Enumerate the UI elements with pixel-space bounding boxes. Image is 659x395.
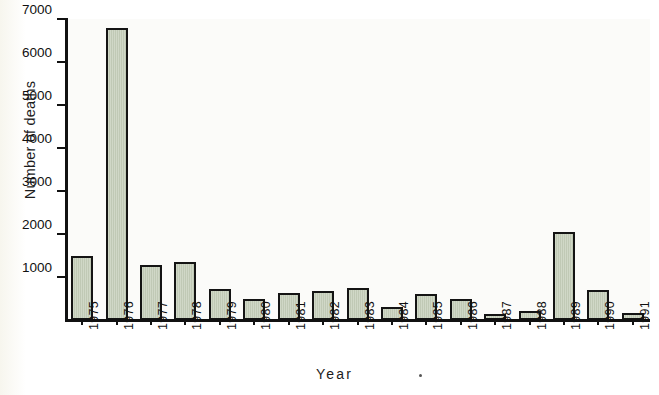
- x-tick-1981: [288, 319, 290, 325]
- y-tick-5000: [57, 104, 65, 106]
- x-tick-label-1983: 1983: [363, 301, 377, 330]
- y-tick-label-3000: 3000: [0, 174, 52, 189]
- x-tick-1978: [184, 319, 186, 325]
- x-tick-1983: [357, 319, 359, 325]
- x-tick-1982: [322, 319, 324, 325]
- y-tick-2000: [57, 233, 65, 235]
- x-tick-label-1986: 1986: [466, 301, 480, 330]
- x-tick-1985: [425, 319, 427, 325]
- y-tick-label-1000: 1000: [0, 260, 52, 275]
- x-tick-1986: [460, 319, 462, 325]
- x-tick-1979: [219, 319, 221, 325]
- y-tick-1000: [57, 276, 65, 278]
- x-tick-label-1982: 1982: [328, 301, 342, 330]
- x-tick-1977: [150, 319, 152, 325]
- x-tick-label-1987: 1987: [500, 301, 514, 330]
- y-tick-label-4000: 4000: [0, 131, 52, 146]
- bar-1976: [106, 28, 128, 320]
- y-tick-label-5000: 5000: [0, 88, 52, 103]
- x-tick-1976: [116, 319, 118, 325]
- x-tick-1988: [529, 319, 531, 325]
- y-tick-label-6000: 6000: [0, 45, 52, 60]
- y-tick-6000: [57, 61, 65, 63]
- x-axis-title: Year: [0, 366, 659, 382]
- x-tick-label-1990: 1990: [603, 301, 617, 330]
- bar-chart: Number of deaths 10002000300040005000600…: [0, 0, 659, 395]
- y-axis-line: [65, 18, 68, 321]
- x-tick-label-1981: 1981: [294, 301, 308, 330]
- plot-area: [65, 19, 650, 320]
- y-tick-label-7000: 7000: [0, 2, 52, 17]
- y-tick-4000: [57, 147, 65, 149]
- x-tick-1991: [632, 319, 634, 325]
- x-tick-label-1984: 1984: [397, 301, 411, 330]
- x-tick-label-1975: 1975: [87, 301, 101, 330]
- x-tick-label-1985: 1985: [431, 301, 445, 330]
- x-tick-label-1977: 1977: [156, 301, 170, 330]
- x-tick-label-1978: 1978: [190, 301, 204, 330]
- x-tick-label-1979: 1979: [225, 301, 239, 330]
- x-tick-1989: [563, 319, 565, 325]
- x-tick-1980: [253, 319, 255, 325]
- y-tick-7000: [57, 18, 65, 20]
- y-tick-label-2000: 2000: [0, 217, 52, 232]
- x-tick-label-1991: 1991: [638, 301, 652, 330]
- x-tick-label-1976: 1976: [122, 301, 136, 330]
- x-tick-1990: [597, 319, 599, 325]
- x-tick-1987: [494, 319, 496, 325]
- x-tick-1975: [81, 319, 83, 325]
- x-tick-label-1988: 1988: [535, 301, 549, 330]
- x-tick-label-1989: 1989: [569, 301, 583, 330]
- stray-mark: [419, 374, 422, 377]
- x-tick-1984: [391, 319, 393, 325]
- y-tick-3000: [57, 190, 65, 192]
- x-tick-label-1980: 1980: [259, 301, 273, 330]
